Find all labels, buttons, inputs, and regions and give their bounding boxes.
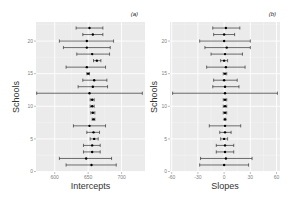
point-estimate <box>223 164 225 166</box>
point-estimate <box>224 151 226 153</box>
y-tick-label: 10 <box>161 103 167 109</box>
x-tick-label: -30 <box>194 174 201 180</box>
point-estimate <box>224 99 226 101</box>
point-estimate <box>224 144 226 146</box>
point-estimate <box>224 125 226 127</box>
figure: 60065070005101520InterceptsSchools(a)-60… <box>0 0 292 198</box>
point-estimate <box>224 131 226 133</box>
x-tick-label: 700 <box>117 174 126 180</box>
point-estimate <box>93 79 95 81</box>
x-tick-label: 600 <box>51 174 60 180</box>
point-estimate <box>224 118 226 120</box>
point-estimate <box>93 138 95 140</box>
point-estimate <box>88 125 90 127</box>
point-estimate <box>224 72 226 74</box>
y-tick-label: 15 <box>27 70 33 76</box>
point-estimate <box>224 112 226 114</box>
point-estimate <box>91 144 93 146</box>
point-estimate <box>223 40 225 42</box>
y-tick-label: 20 <box>161 38 167 44</box>
point-estimate <box>91 99 93 101</box>
point-estimate <box>86 40 88 42</box>
plot-background <box>36 22 145 172</box>
point-estimate <box>223 33 225 35</box>
x-tick-label: -60 <box>168 174 175 180</box>
point-estimate <box>225 157 227 159</box>
y-tick-label: 0 <box>164 168 167 174</box>
point-estimate <box>223 59 225 61</box>
y-axis-title: Schools <box>149 80 159 113</box>
point-estimate <box>224 53 226 55</box>
point-estimate <box>88 92 90 94</box>
y-tick-label: 20 <box>27 38 33 44</box>
point-estimate <box>224 86 226 88</box>
point-estimate <box>92 33 94 35</box>
chart-panel-a: 60065070005101520InterceptsSchools(a) <box>11 11 145 191</box>
point-estimate <box>92 86 94 88</box>
point-estimate <box>224 105 226 107</box>
point-estimate <box>226 46 228 48</box>
point-estimate <box>91 151 93 153</box>
point-estimate <box>88 27 90 29</box>
y-tick-label: 5 <box>164 136 167 142</box>
point-estimate <box>223 138 225 140</box>
y-axis-title: Schools <box>11 80 21 113</box>
panel-tag: (a) <box>131 11 138 17</box>
x-tick-label: 60 <box>274 174 280 180</box>
x-tick-label: 30 <box>248 174 254 180</box>
panel-tag: (b) <box>269 11 276 17</box>
point-estimate <box>225 27 227 29</box>
point-estimate <box>92 112 94 114</box>
y-tick-label: 10 <box>27 103 33 109</box>
point-estimate <box>223 79 225 81</box>
point-estimate <box>92 118 94 120</box>
point-estimate <box>91 53 93 55</box>
x-tick-label: 0 <box>223 174 226 180</box>
point-estimate <box>96 59 98 61</box>
point-estimate <box>85 157 87 159</box>
y-tick-label: 15 <box>161 70 167 76</box>
point-estimate <box>90 164 92 166</box>
point-estimate <box>86 66 88 68</box>
point-estimate <box>86 46 88 48</box>
point-estimate <box>224 92 226 94</box>
x-axis-title: Intercepts <box>71 181 111 191</box>
y-tick-label: 5 <box>30 136 33 142</box>
chart-panel-b: -60-300306005101520SlopesSchools(b) <box>149 11 280 191</box>
point-estimate <box>91 105 93 107</box>
y-tick-label: 0 <box>30 168 33 174</box>
point-estimate <box>87 72 89 74</box>
x-tick-label: 650 <box>84 174 93 180</box>
point-estimate <box>92 131 94 133</box>
point-estimate <box>225 66 227 68</box>
errorbar-school-8 <box>224 118 226 121</box>
x-axis-title: Slopes <box>211 181 239 191</box>
